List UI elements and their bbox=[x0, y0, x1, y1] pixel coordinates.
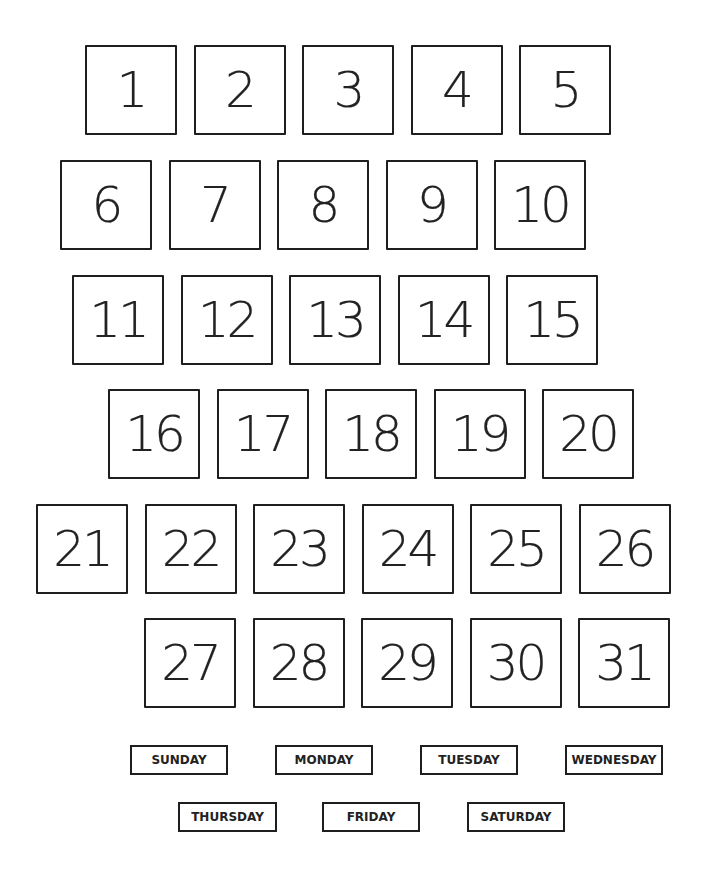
number-card-25: 25 bbox=[470, 504, 562, 594]
number-label: 20 bbox=[559, 405, 617, 463]
number-card-19: 19 bbox=[434, 389, 526, 479]
number-card-1: 1 bbox=[85, 45, 177, 135]
number-label: 19 bbox=[451, 405, 509, 463]
number-label: 31 bbox=[595, 634, 653, 692]
number-label: 18 bbox=[342, 405, 400, 463]
number-card-4: 4 bbox=[411, 45, 503, 135]
day-card-sunday: SUNDAY bbox=[130, 745, 228, 775]
number-label: 17 bbox=[234, 405, 292, 463]
number-card-7: 7 bbox=[169, 160, 261, 250]
number-card-8: 8 bbox=[277, 160, 369, 250]
number-card-23: 23 bbox=[253, 504, 345, 594]
day-label: FRIDAY bbox=[347, 810, 396, 824]
number-card-22: 22 bbox=[145, 504, 237, 594]
number-card-18: 18 bbox=[325, 389, 417, 479]
number-card-24: 24 bbox=[362, 504, 454, 594]
day-label: MONDAY bbox=[295, 753, 354, 767]
number-card-3: 3 bbox=[302, 45, 394, 135]
day-card-thursday: THURSDAY bbox=[178, 802, 277, 832]
number-label: 3 bbox=[334, 61, 363, 119]
number-label: 16 bbox=[125, 405, 183, 463]
number-label: 7 bbox=[200, 176, 229, 234]
number-label: 13 bbox=[306, 291, 364, 349]
number-label: 26 bbox=[596, 520, 654, 578]
day-card-friday: FRIDAY bbox=[322, 802, 420, 832]
number-card-13: 13 bbox=[289, 275, 381, 365]
number-card-30: 30 bbox=[470, 618, 562, 708]
number-card-28: 28 bbox=[253, 618, 345, 708]
day-label: SATURDAY bbox=[481, 810, 552, 824]
number-card-15: 15 bbox=[506, 275, 598, 365]
day-label: TUESDAY bbox=[438, 753, 500, 767]
number-card-12: 12 bbox=[181, 275, 273, 365]
number-label: 24 bbox=[379, 520, 437, 578]
number-card-2: 2 bbox=[194, 45, 286, 135]
number-card-29: 29 bbox=[361, 618, 453, 708]
number-label: 8 bbox=[309, 176, 338, 234]
day-card-saturday: SATURDAY bbox=[467, 802, 565, 832]
number-label: 11 bbox=[89, 291, 147, 349]
number-label: 27 bbox=[161, 634, 219, 692]
day-label: WEDNESDAY bbox=[571, 753, 656, 767]
number-label: 30 bbox=[487, 634, 545, 692]
number-label: 14 bbox=[415, 291, 473, 349]
number-card-27: 27 bbox=[144, 618, 236, 708]
number-label: 4 bbox=[442, 61, 471, 119]
number-card-20: 20 bbox=[542, 389, 634, 479]
number-label: 28 bbox=[270, 634, 328, 692]
number-label: 25 bbox=[487, 520, 545, 578]
day-card-monday: MONDAY bbox=[275, 745, 373, 775]
number-label: 10 bbox=[511, 176, 569, 234]
number-label: 22 bbox=[162, 520, 220, 578]
number-card-14: 14 bbox=[398, 275, 490, 365]
number-label: 29 bbox=[378, 634, 436, 692]
day-card-tuesday: TUESDAY bbox=[420, 745, 518, 775]
number-label: 6 bbox=[92, 176, 121, 234]
day-label: THURSDAY bbox=[191, 810, 264, 824]
number-card-21: 21 bbox=[36, 504, 128, 594]
day-card-wednesday: WEDNESDAY bbox=[565, 745, 663, 775]
number-card-10: 10 bbox=[494, 160, 586, 250]
number-card-9: 9 bbox=[386, 160, 478, 250]
number-card-11: 11 bbox=[72, 275, 164, 365]
number-label: 12 bbox=[198, 291, 256, 349]
number-card-26: 26 bbox=[579, 504, 671, 594]
number-card-5: 5 bbox=[519, 45, 611, 135]
number-card-31: 31 bbox=[578, 618, 670, 708]
number-label: 2 bbox=[225, 61, 254, 119]
number-card-17: 17 bbox=[217, 389, 309, 479]
number-label: 15 bbox=[523, 291, 581, 349]
number-label: 1 bbox=[117, 61, 146, 119]
number-label: 9 bbox=[417, 176, 446, 234]
number-card-6: 6 bbox=[60, 160, 152, 250]
number-label: 5 bbox=[551, 61, 580, 119]
number-label: 21 bbox=[53, 520, 111, 578]
number-card-16: 16 bbox=[108, 389, 200, 479]
number-label: 23 bbox=[270, 520, 328, 578]
day-label: SUNDAY bbox=[151, 753, 206, 767]
